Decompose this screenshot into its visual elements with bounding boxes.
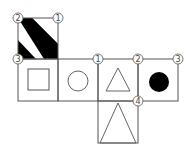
square-outline-icon bbox=[28, 69, 49, 90]
svg-text:2: 2 bbox=[15, 14, 20, 23]
center-left-face bbox=[58, 59, 98, 101]
vertex-label: 2 bbox=[133, 54, 143, 64]
triangle-outline-icon bbox=[106, 68, 130, 91]
top-face bbox=[18, 18, 58, 59]
cube-net-diagram: 2 1 3 1 2 3 4 bbox=[0, 0, 196, 156]
svg-text:1: 1 bbox=[95, 55, 100, 64]
vertex-label: 3 bbox=[13, 54, 23, 64]
diagonal-stripes-icon bbox=[18, 18, 58, 59]
vertex-label: 2 bbox=[13, 13, 23, 23]
vertex-label: 1 bbox=[53, 13, 63, 23]
svg-text:3: 3 bbox=[175, 55, 180, 64]
svg-text:4: 4 bbox=[135, 97, 140, 106]
svg-text:2: 2 bbox=[135, 55, 140, 64]
vertex-label: 1 bbox=[93, 54, 103, 64]
vertex-label: 4 bbox=[133, 96, 143, 106]
circle-outline-icon bbox=[68, 71, 88, 91]
svg-text:3: 3 bbox=[15, 55, 20, 64]
vertex-label: 3 bbox=[173, 54, 183, 64]
filled-circle-icon bbox=[149, 72, 169, 92]
tall-triangle-outline-icon bbox=[100, 103, 136, 143]
center-face bbox=[98, 59, 138, 101]
left-face bbox=[18, 59, 58, 101]
svg-text:1: 1 bbox=[55, 14, 60, 23]
bottom-face bbox=[98, 101, 138, 143]
